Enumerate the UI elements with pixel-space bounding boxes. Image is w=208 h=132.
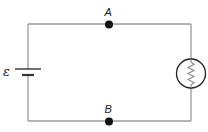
bulb-icon (177, 59, 206, 88)
node-b-dot (105, 118, 113, 126)
node-b-label: B (105, 103, 112, 115)
circuit-diagram: ε A B (0, 0, 208, 132)
node-a-dot (105, 21, 113, 29)
battery-icon (15, 69, 41, 75)
emf-label: ε (3, 64, 10, 79)
node-a-label: A (104, 6, 112, 18)
